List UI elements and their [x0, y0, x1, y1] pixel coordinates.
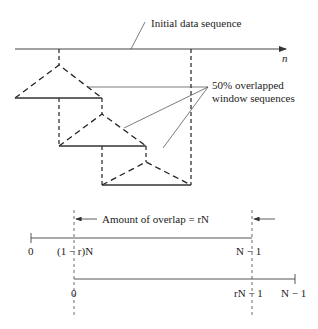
windows-label-line2: window sequences [212, 92, 295, 104]
overlap-annotation: Amount of overlap = rN [76, 213, 275, 225]
overlap-guides [74, 210, 252, 318]
leader-line [131, 22, 145, 49]
axis2-tick-0: 0 [71, 287, 77, 299]
axis1-tick-end: N − 1 [236, 245, 261, 257]
axis1-tick-overlap-start: (1 − r)N [57, 245, 93, 258]
axis1-tick-0: 0 [28, 245, 34, 257]
window-2 [59, 114, 146, 146]
window-boundaries [59, 49, 191, 185]
window-index-axis-1: 0 (1 − r)N N − 1 [28, 233, 261, 258]
data-sequence-axis: n Initial data sequence [15, 17, 288, 64]
window-1 [15, 65, 102, 98]
windows-label-line1: 50% overlapped [212, 79, 284, 91]
window-3 [102, 162, 191, 185]
axis2-tick-end: N − 1 [281, 287, 306, 299]
window-index-axis-2: 0 rN − 1 N − 1 [71, 274, 306, 299]
axis-variable-label: n [282, 52, 288, 64]
overlap-label: Amount of overlap = rN [102, 213, 209, 225]
overlapped-windows-diagram: n Initial data sequence 50% overlapped w… [0, 0, 318, 329]
initial-sequence-label: Initial data sequence [151, 17, 242, 29]
axis2-tick-overlap-end: rN − 1 [234, 287, 263, 299]
window-callout-lines [88, 87, 208, 148]
